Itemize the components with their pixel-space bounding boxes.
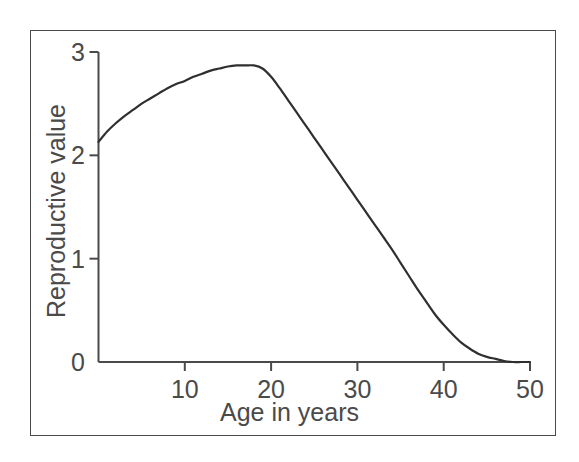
y-axis-title: Reproductive value [42, 104, 71, 318]
figure-root: 0123 1020304050 Reproductive value Age i… [0, 0, 579, 462]
figure-border-frame [30, 30, 556, 436]
y-axis-tick-label: 3 [55, 38, 85, 67]
y-axis-tick-label: 0 [55, 348, 85, 377]
x-axis-title: Age in years [0, 398, 579, 427]
